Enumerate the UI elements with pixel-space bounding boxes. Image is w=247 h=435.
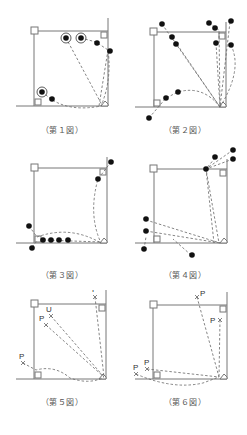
label-p: P [133,363,138,372]
second-base-icon [150,28,157,35]
label-p: P [19,352,24,361]
first-base-icon [101,32,107,38]
figure-5: P U P P （第５図） [0,290,124,435]
first-base-icon [219,33,225,39]
label-p: P [39,314,44,323]
figure-caption: （第５図） [0,396,124,407]
figure-1: （第１図） [0,0,124,145]
label-p: P [210,316,215,325]
label-p: P [200,290,205,298]
third-base-icon [154,236,160,242]
figure-caption: （第３図） [0,269,124,280]
home-plate-icon [220,374,227,379]
figure-2: （第２図） [123,0,247,145]
first-base-icon [220,170,226,176]
baseball-diamond-diagram: P P P P [123,290,247,435]
figure-6: P P P P （第６図） [123,290,247,435]
first-base-icon [220,306,226,312]
second-base-icon [150,301,157,308]
second-base-icon [150,165,157,172]
figure-3: （第３図） [0,145,124,290]
figure-caption: （第２図） [123,124,247,135]
home-plate-icon [101,101,108,106]
figure-4: （第４図） [123,145,247,290]
third-base-icon [154,100,160,106]
third-base-icon [154,372,160,378]
figure-caption: （第１図） [0,124,124,135]
second-base-icon [31,300,38,307]
home-plate-icon [220,238,227,243]
label-p: P [92,290,97,294]
figure-caption: （第４図） [123,269,247,280]
label-p: P [144,358,149,367]
first-base-icon [99,305,105,311]
baseball-diamond-diagram: P U P P [0,290,124,435]
figure-caption: （第６図） [123,396,247,407]
label-u: U [46,305,52,314]
third-base-icon [35,372,41,378]
second-base-icon [31,164,38,171]
second-base-icon [31,27,38,34]
third-base-icon [35,99,41,105]
